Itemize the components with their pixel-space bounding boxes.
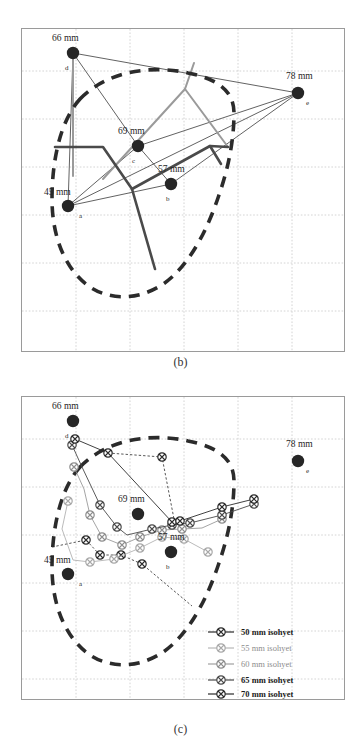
station-d-b: 66 mm d [52,33,79,72]
panel-c-isohyetal: 66 mm d 78 mm e 69 mm 57 mm b 45 mm a 50… [21,396,345,700]
station-a-value-label: 45 mm [44,187,71,197]
station-e-value-label-c: 78 mm [286,439,313,449]
legend-label-60: 60 mm isohyet [241,659,292,669]
station-a-label-c: a [79,580,83,588]
panel-c-caption: (c) [0,722,361,737]
station-b-label-c: b [166,563,170,571]
station-e-value-label: 78 mm [286,71,313,81]
panel-b-thiessen: 66 mm d 78 mm e 69 mm c 57 mm b 45 mm a [21,28,345,352]
station-e-label: e [306,99,309,107]
triangulation-network-b [68,53,298,206]
thiessen-thick-edges-b [55,146,228,269]
station-d-value-label: 66 mm [52,33,79,43]
station-b-label: b [166,195,170,203]
station-b-c: 57 mm b [158,532,185,571]
station-d-label: d [65,64,69,72]
isohyet-60 [70,463,226,549]
isohyet-55 [62,497,212,566]
station-a-value-label-c: 45 mm [44,555,71,565]
station-b-value-label-c: 57 mm [158,532,185,542]
station-e-c: 78 mm e [286,439,313,475]
legend-item-50[interactable]: 50 mm isohyet [208,627,294,637]
legend-label-65: 65 mm isohyet [241,675,294,685]
legend-c: 50 mm isohyet 55 mm isohyet 60 mm isohye… [208,627,294,699]
panel-b-caption: (b) [0,355,361,370]
station-d-value-label-c: 66 mm [52,401,79,411]
station-c-value-label-c: 69 mm [118,494,145,504]
legend-item-65[interactable]: 65 mm isohyet [208,675,294,685]
legend-label-50: 50 mm isohyet [241,627,294,637]
legend-item-60[interactable]: 60 mm isohyet [208,659,292,669]
station-c-c: 69 mm [118,494,145,520]
station-c-value-label: 69 mm [118,126,145,136]
legend-item-55[interactable]: 55 mm isohyet [208,643,292,653]
station-c-label: c [132,157,135,165]
legend-item-70[interactable]: 70 mm isohyet [208,689,294,699]
station-e-b: 78 mm e [286,71,313,107]
station-d-c: 66 mm d [52,401,79,440]
station-e-label-c: e [306,467,309,475]
station-d-label-c: d [65,432,69,440]
legend-label-70: 70 mm isohyet [241,689,294,699]
station-a-label: a [79,212,83,220]
legend-label-55: 55 mm isohyet [241,643,292,653]
station-b-value-label: 57 mm [158,164,185,174]
station-b-b: 57 mm b [158,164,185,203]
